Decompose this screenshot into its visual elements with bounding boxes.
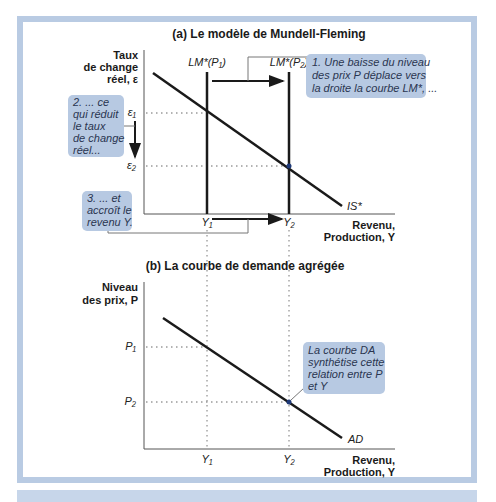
panel-b-y-axis-label: Niveau des prix, P	[82, 281, 138, 306]
tick-p1: P₁	[125, 340, 136, 352]
svg-text:1. Une baisse du niveau: 1. Une baisse du niveau	[312, 56, 430, 68]
svg-text:de change: de change	[84, 61, 138, 73]
equilibrium-point-b	[287, 400, 292, 405]
svg-text:Niveau: Niveau	[102, 281, 138, 293]
panel-a-title: (a) Le modèle de Mundell-Fleming	[172, 27, 365, 41]
is-label: IS*	[347, 200, 362, 212]
svg-text:3. ... et: 3. ... et	[87, 192, 122, 204]
panel-b-x-axis-label: Revenu, Production, Y	[324, 454, 396, 478]
tick-y2-b: Y₂	[283, 453, 295, 465]
svg-text:2. ... ce: 2. ... ce	[72, 96, 109, 108]
ad-label: AD	[347, 433, 363, 445]
tick-e2: ε₂	[127, 159, 137, 171]
svg-text:accroît le: accroît le	[87, 204, 132, 216]
svg-text:Production, Y: Production, Y	[324, 231, 396, 243]
svg-text:synthétise cette: synthétise cette	[308, 356, 384, 368]
lm1-label: LM*(P₁)	[188, 56, 226, 68]
callout-da-connector	[291, 388, 304, 400]
panel-a-y-axis-label: Taux de change réel, ε	[84, 49, 139, 85]
panel-a-x-axis-label: Revenu, Production, Y	[324, 219, 396, 243]
svg-text:des prix, P: des prix, P	[82, 294, 138, 306]
svg-text:Revenu,: Revenu,	[352, 219, 395, 231]
svg-text:qui réduit: qui réduit	[73, 108, 119, 120]
callout-1-text: 1. Une baisse du niveau des prix P dépla…	[312, 56, 437, 94]
svg-text:réel, ε: réel, ε	[107, 73, 139, 85]
svg-text:revenu Y.: revenu Y.	[87, 216, 133, 228]
equilibrium-point-a	[287, 164, 292, 169]
tick-y2-a: Y₂	[283, 216, 295, 228]
panel-b-title: (b) La courbe de demande agrégée	[146, 259, 345, 273]
lm2-label: LM*(P₂)	[270, 56, 309, 68]
svg-text:le taux: le taux	[73, 120, 106, 132]
tick-e1: ε₁	[128, 106, 137, 118]
svg-text:réel...: réel...	[73, 144, 101, 156]
svg-text:la droite la courbe LM*, ...: la droite la courbe LM*, ...	[312, 82, 437, 94]
svg-text:Taux: Taux	[113, 49, 139, 61]
svg-text:et Y: et Y	[308, 380, 328, 392]
tick-y1-b: Y₁	[202, 453, 213, 465]
svg-text:Production, Y: Production, Y	[324, 466, 396, 478]
tick-y1-a: Y₁	[202, 216, 213, 228]
svg-text:La courbe DA: La courbe DA	[308, 344, 375, 356]
svg-text:relation entre P: relation entre P	[308, 368, 383, 380]
tick-p2: P₂	[124, 395, 136, 407]
svg-text:Revenu,: Revenu,	[352, 454, 395, 466]
svg-text:de change: de change	[73, 132, 124, 144]
svg-text:des prix P déplace vers: des prix P déplace vers	[312, 69, 426, 81]
